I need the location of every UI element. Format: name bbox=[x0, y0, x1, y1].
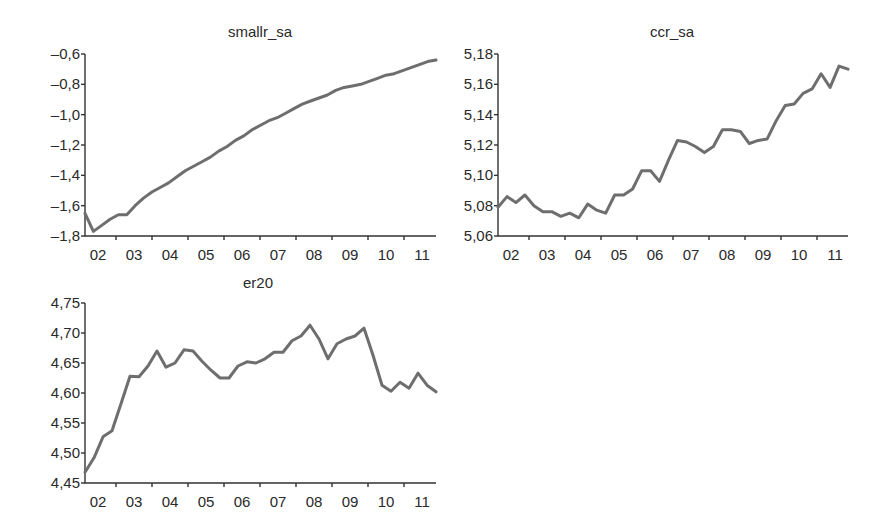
y-tick-label: 4,70 bbox=[51, 324, 80, 341]
x-tick-label: 02 bbox=[90, 246, 107, 263]
y-tick-label: –1,0 bbox=[51, 106, 80, 123]
x-tick-label: 08 bbox=[306, 246, 323, 263]
x-tick-label: 06 bbox=[647, 246, 664, 263]
x-tick-label: 09 bbox=[342, 246, 359, 263]
y-tick-label: 4,50 bbox=[51, 444, 80, 461]
chart-panel-er20: er204,754,704,654,604,554,504,4502030405… bbox=[51, 274, 436, 510]
x-tick-label: 11 bbox=[827, 246, 843, 263]
y-tick-label: 4,55 bbox=[51, 414, 80, 431]
x-tick-label: 07 bbox=[270, 246, 287, 263]
y-tick-label: –1,6 bbox=[51, 197, 80, 214]
x-tick-label: 04 bbox=[162, 493, 179, 510]
x-tick-label: 06 bbox=[234, 493, 251, 510]
x-tick-label: 05 bbox=[198, 493, 215, 510]
x-tick-label: 08 bbox=[306, 493, 323, 510]
x-tick-label: 09 bbox=[755, 246, 772, 263]
x-tick-label: 05 bbox=[198, 246, 215, 263]
x-tick-label: 02 bbox=[90, 493, 107, 510]
x-tick-label: 05 bbox=[611, 246, 628, 263]
y-tick-label: –1,8 bbox=[51, 227, 80, 244]
x-tick-label: 07 bbox=[683, 246, 700, 263]
x-tick-label: 10 bbox=[378, 493, 395, 510]
y-tick-label: –0,6 bbox=[51, 45, 80, 62]
y-tick-label: 4,75 bbox=[51, 294, 80, 311]
x-tick-label: 10 bbox=[378, 246, 395, 263]
x-tick-label: 03 bbox=[539, 246, 556, 263]
x-tick-label: 08 bbox=[719, 246, 736, 263]
data-series-line bbox=[85, 60, 436, 231]
axis-lines bbox=[498, 54, 848, 236]
x-tick-label: 06 bbox=[234, 246, 251, 263]
x-tick-label: 10 bbox=[791, 246, 808, 263]
chart-canvas: smallr_sa–0,6–0,8–1,0–1,2–1,4–1,6–1,8020… bbox=[0, 0, 882, 532]
x-tick-label: 04 bbox=[162, 246, 179, 263]
y-tick-label: 5,08 bbox=[464, 197, 493, 214]
x-tick-label: 03 bbox=[126, 493, 143, 510]
y-tick-label: 5,10 bbox=[464, 166, 493, 183]
x-tick-label: 09 bbox=[342, 493, 359, 510]
x-tick-label: 11 bbox=[414, 246, 430, 263]
chart-title: er20 bbox=[243, 274, 273, 291]
axis-lines bbox=[85, 303, 436, 483]
y-tick-label: –0,8 bbox=[51, 75, 80, 92]
x-tick-label: 03 bbox=[126, 246, 143, 263]
data-series-line bbox=[85, 325, 436, 472]
y-tick-label: 5,16 bbox=[464, 75, 493, 92]
chart-panel-ccr-sa: ccr_sa5,185,165,145,125,105,085,06020304… bbox=[464, 23, 848, 263]
y-tick-label: 4,60 bbox=[51, 384, 80, 401]
y-tick-label: 4,65 bbox=[51, 354, 80, 371]
x-tick-label: 04 bbox=[575, 246, 592, 263]
x-tick-label: 07 bbox=[270, 493, 287, 510]
y-tick-label: –1,4 bbox=[51, 166, 80, 183]
y-tick-label: –1,2 bbox=[51, 136, 80, 153]
y-tick-label: 5,14 bbox=[464, 106, 493, 123]
axis-lines bbox=[85, 54, 436, 236]
y-tick-label: 5,18 bbox=[464, 45, 493, 62]
y-tick-label: 5,06 bbox=[464, 227, 493, 244]
y-tick-label: 4,45 bbox=[51, 474, 80, 491]
chart-title: ccr_sa bbox=[650, 23, 695, 40]
chart-title: smallr_sa bbox=[228, 23, 293, 40]
x-tick-label: 02 bbox=[503, 246, 520, 263]
x-tick-label: 11 bbox=[414, 493, 430, 510]
data-series-line bbox=[498, 66, 848, 218]
chart-panel-smallr-sa: smallr_sa–0,6–0,8–1,0–1,2–1,4–1,6–1,8020… bbox=[51, 23, 436, 263]
y-tick-label: 5,12 bbox=[464, 136, 493, 153]
